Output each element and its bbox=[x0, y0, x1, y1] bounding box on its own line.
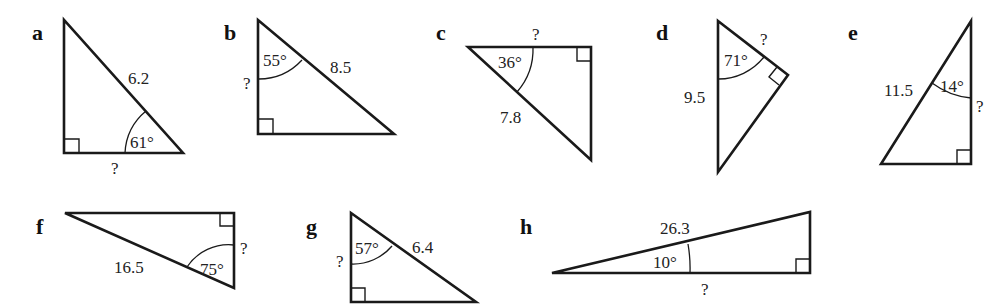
triangle-c: c 36° 7.8 ? bbox=[436, 20, 591, 160]
unknown-side: ? bbox=[976, 97, 984, 116]
angle-value: 61° bbox=[130, 133, 154, 152]
side-length: 7.8 bbox=[500, 108, 521, 127]
unknown-side: ? bbox=[760, 30, 768, 49]
right-angle-marker bbox=[577, 47, 591, 61]
right-angle-marker bbox=[796, 259, 810, 273]
triangle-label: a bbox=[32, 20, 43, 45]
unknown-side: ? bbox=[336, 252, 344, 271]
angle-arc bbox=[688, 244, 690, 273]
angle-value: 55° bbox=[263, 51, 287, 70]
unknown-side: ? bbox=[240, 239, 248, 258]
unknown-side: ? bbox=[701, 280, 709, 299]
triangle-g: g 57° 6.4 ? bbox=[306, 213, 476, 302]
right-angle-marker bbox=[220, 213, 234, 226]
angle-value: 36° bbox=[498, 53, 522, 72]
side-length: 6.4 bbox=[412, 238, 434, 257]
triangle-label: f bbox=[36, 214, 44, 239]
triangle-label: d bbox=[656, 20, 668, 45]
triangle-shape bbox=[64, 20, 183, 153]
right-angle-marker bbox=[64, 139, 79, 153]
angle-value: 71° bbox=[724, 51, 748, 70]
side-length: 9.5 bbox=[684, 88, 705, 107]
triangle-h: h 10° 26.3 ? bbox=[520, 212, 810, 299]
angle-value: 75° bbox=[200, 260, 224, 279]
angle-value: 14° bbox=[940, 77, 964, 96]
triangle-b: b 55° 8.5 ? bbox=[224, 20, 394, 134]
right-angle-marker bbox=[957, 150, 971, 164]
side-length: 11.5 bbox=[884, 81, 913, 100]
unknown-side: ? bbox=[243, 74, 251, 93]
angle-value: 57° bbox=[355, 239, 379, 258]
triangle-a: a 61° 6.2 ? bbox=[32, 20, 183, 178]
triangle-label: g bbox=[306, 214, 317, 239]
triangle-label: c bbox=[436, 20, 446, 45]
unknown-side: ? bbox=[111, 159, 119, 178]
side-length: 8.5 bbox=[330, 58, 351, 77]
triangle-label: e bbox=[848, 20, 858, 45]
right-angle-marker bbox=[769, 67, 779, 85]
right-angle-marker bbox=[258, 119, 273, 134]
triangle-label: h bbox=[520, 214, 532, 239]
unknown-side: ? bbox=[532, 25, 540, 44]
triangle-e: e 14° 11.5 ? bbox=[848, 20, 984, 164]
right-angle-marker bbox=[351, 288, 365, 302]
triangle-d: d 71° 9.5 ? bbox=[656, 20, 788, 172]
triangle-label: b bbox=[224, 20, 236, 45]
angle-value: 10° bbox=[653, 253, 677, 272]
triangle-f: f 75° 16.5 ? bbox=[36, 213, 248, 288]
side-length: 26.3 bbox=[660, 219, 690, 238]
triangles-figure: a 61° 6.2 ? b 55° 8.5 ? c 36° 7.8 ? d 71… bbox=[0, 0, 1000, 305]
side-length: 16.5 bbox=[114, 258, 144, 277]
triangle-shape bbox=[718, 21, 788, 172]
triangle-shape bbox=[258, 20, 394, 134]
side-length: 6.2 bbox=[128, 69, 149, 88]
triangle-shape bbox=[468, 47, 591, 160]
